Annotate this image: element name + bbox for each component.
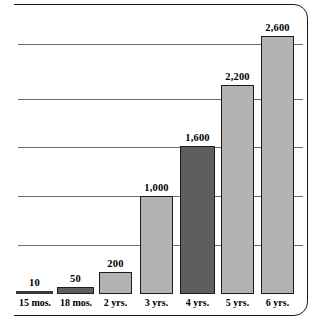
bar-3-yrs [140, 196, 173, 294]
chart-figure: 10 50 200 1,000 1,600 2,200 2,600 15 mos… [0, 0, 324, 326]
value-label-4-yrs: 1,600 [177, 132, 218, 143]
value-label-2-yrs: 200 [97, 258, 134, 269]
bar-2-yrs [99, 272, 132, 294]
bar-15-mos [16, 291, 53, 294]
tick-label-3-yrs: 3 yrs. [135, 297, 178, 308]
value-label-6-yrs: 2,600 [257, 22, 298, 33]
plot-area: 10 50 200 1,000 1,600 2,200 2,600 15 mos… [0, 0, 324, 326]
value-label-3-yrs: 1,000 [136, 182, 177, 193]
bar-4-yrs [180, 146, 215, 294]
value-label-15-mos: 10 [16, 277, 53, 288]
tick-label-2-yrs: 2 yrs. [94, 297, 137, 308]
bar-6-yrs [261, 36, 294, 294]
bar-5-yrs [221, 85, 254, 294]
value-label-18-mos: 50 [57, 273, 94, 284]
bar-18-mos [57, 287, 94, 294]
tick-label-6-yrs: 6 yrs. [256, 297, 299, 308]
tick-label-5-yrs: 5 yrs. [216, 297, 259, 308]
value-label-5-yrs: 2,200 [217, 71, 258, 82]
tick-label-4-yrs: 4 yrs. [176, 297, 219, 308]
